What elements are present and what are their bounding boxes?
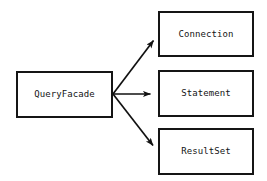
node-connection[interactable]: Connection [158,11,254,57]
class-diagram-canvas: QueryFacade Connection Statement ResultS… [0,0,267,181]
node-query-facade[interactable]: QueryFacade [16,71,113,118]
node-statement[interactable]: Statement [158,70,254,117]
node-connection-label: Connection [178,30,233,39]
edge-facade-to-connection [113,41,154,95]
node-result-set[interactable]: ResultSet [158,128,254,175]
node-query-facade-label: QueryFacade [34,90,95,99]
edge-facade-to-result-set [113,94,153,146]
node-result-set-label: ResultSet [181,147,231,156]
node-statement-label: Statement [181,89,231,98]
